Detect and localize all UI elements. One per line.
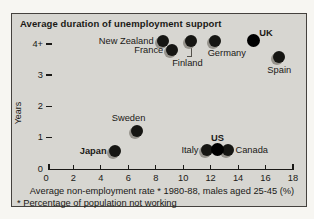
point-label-italy: Italy xyxy=(181,145,198,155)
y-tick-label: 4+ xyxy=(21,39,43,49)
y-tick-mark xyxy=(46,137,52,139)
point-label-japan: Japan xyxy=(80,146,107,156)
x-tick-label: 4 xyxy=(91,173,111,183)
x-tick-mark xyxy=(210,165,211,169)
x-tick-mark xyxy=(183,165,184,169)
data-point-us xyxy=(211,143,224,156)
point-label-finland: Finland xyxy=(172,58,203,68)
point-label-spain: Spain xyxy=(267,65,291,75)
data-point-finland xyxy=(185,35,197,47)
chart-footnote: * Percentage of population not working xyxy=(17,198,177,208)
x-tick-mark xyxy=(155,165,156,169)
y-axis-title: Years xyxy=(13,97,23,129)
x-tick-label: 0 xyxy=(36,173,56,183)
data-point-germany xyxy=(209,35,221,47)
point-label-sweden: Sweden xyxy=(112,113,146,123)
x-tick-label: 16 xyxy=(256,173,276,183)
point-label-us: US xyxy=(211,133,224,143)
x-axis-title: Average non-employment rate * 1980-88, m… xyxy=(22,186,302,196)
y-tick-mark xyxy=(46,106,52,108)
x-tick-mark xyxy=(265,165,266,169)
point-label-germany: Germany xyxy=(208,48,246,58)
chart-panel: Average duration of unemployment support… xyxy=(11,13,307,207)
y-tick-label: 3 xyxy=(21,70,43,80)
x-tick-label: 14 xyxy=(228,173,248,183)
x-axis-endcap-left xyxy=(48,164,50,170)
data-point-france xyxy=(166,44,178,56)
point-label-uk: UK xyxy=(259,28,272,38)
label-connector xyxy=(187,56,192,57)
y-tick-label: 1 xyxy=(21,132,43,142)
y-tick-mark xyxy=(46,74,52,76)
plot-area: 02468101214161801234+New ZealandFranceFi… xyxy=(12,14,306,206)
x-tick-label: 6 xyxy=(118,173,138,183)
data-point-sweden xyxy=(131,125,143,137)
x-axis-line xyxy=(48,169,294,171)
x-tick-label: 2 xyxy=(63,173,83,183)
x-tick-label: 8 xyxy=(146,173,166,183)
x-tick-mark xyxy=(100,165,101,169)
point-label-canada: Canada xyxy=(235,145,268,155)
data-point-japan xyxy=(109,145,121,157)
x-tick-label: 18 xyxy=(283,173,303,183)
point-label-france: France xyxy=(134,45,163,55)
y-tick-label: 0 xyxy=(21,164,43,174)
data-point-canada xyxy=(222,144,234,156)
data-point-spain xyxy=(273,51,285,63)
x-tick-label: 10 xyxy=(173,173,193,183)
y-tick-mark xyxy=(46,43,52,45)
data-point-uk xyxy=(247,34,260,47)
x-tick-label: 12 xyxy=(201,173,221,183)
x-tick-mark xyxy=(73,165,74,169)
x-axis-endcap-right xyxy=(292,164,294,170)
y-tick-label: 2 xyxy=(21,101,43,111)
x-tick-mark xyxy=(238,165,239,169)
x-tick-mark xyxy=(128,165,129,169)
